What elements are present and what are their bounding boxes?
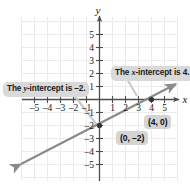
x-tick-label: –2: [68, 103, 79, 113]
y-axis-label: y: [95, 4, 101, 16]
x-tick-label: –4: [42, 103, 53, 113]
x-tick-label: 1: [110, 103, 115, 113]
y-tick-label: –5: [84, 160, 95, 170]
x-tick-label: 5: [162, 103, 167, 113]
leader-line-x-intercept: [127, 79, 137, 96]
x-axis-label: x: [182, 93, 188, 105]
point-x-intercept: [149, 97, 154, 102]
y-tick-label: 5: [89, 30, 94, 40]
y-tick-label: –4: [84, 147, 95, 157]
y-tick-label: 3: [89, 56, 94, 66]
callout-x-intercept-suffix: -intercept is 4.: [135, 68, 189, 77]
callout-y-intercept-suffix: -intercept is –2.: [27, 84, 85, 93]
x-tick-label: –5: [29, 103, 40, 113]
y-tick-label: 1: [89, 82, 94, 92]
graph-figure: y x –5 –4 –3 –2 –1 1 2 3 4 5 5 4 3 2 1 –…: [0, 0, 190, 194]
point-label-x-intercept: (4, 0): [144, 115, 171, 129]
y-tick-label: 4: [89, 43, 94, 53]
y-tick-label: –1: [84, 108, 95, 118]
x-tick-label: 4: [149, 103, 154, 113]
axis-lines: [22, 16, 179, 181]
point-y-intercept: [97, 123, 102, 128]
y-tick-label: –3: [84, 134, 95, 144]
x-tick-label: 2: [123, 103, 128, 113]
x-tick-label: –3: [55, 103, 66, 113]
x-tick-labels: –5 –4 –3 –2 –1 1 2 3 4 5: [29, 103, 167, 113]
callout-y-intercept: The y-intercept is –2.: [3, 82, 89, 97]
callout-y-intercept-prefix: The: [7, 84, 23, 93]
callout-x-intercept: The x-intercept is 4.: [111, 66, 190, 81]
x-tick-label: 3: [136, 103, 141, 113]
y-tick-label: 2: [89, 69, 94, 79]
y-tick-label: –2: [84, 121, 95, 131]
callout-x-intercept-prefix: The: [115, 68, 131, 77]
coordinate-plane: y x –5 –4 –3 –2 –1 1 2 3 4 5 5 4 3 2 1 –…: [0, 0, 190, 194]
point-label-y-intercept: (0, –2): [116, 131, 148, 145]
